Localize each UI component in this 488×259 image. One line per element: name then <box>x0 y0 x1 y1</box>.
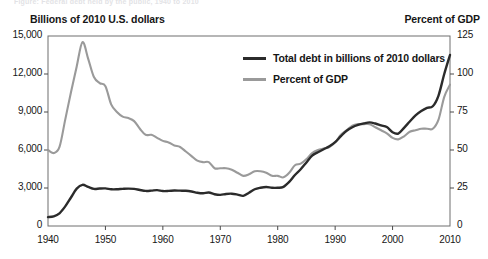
x-tick-label: 1970 <box>200 234 240 245</box>
figure-container: Figure: Federal debt held by the public,… <box>0 0 488 259</box>
y-tick-label-right: 75 <box>457 105 488 116</box>
chart-plot-area <box>0 0 488 259</box>
x-tick-label: 1990 <box>315 234 355 245</box>
legend-swatch-total-debt <box>243 57 266 60</box>
x-tick-label: 1950 <box>85 234 125 245</box>
x-tick-label: 2010 <box>430 234 470 245</box>
legend-swatch-percent-gdp <box>243 78 266 81</box>
y-tick-label-left: 0 <box>0 219 42 230</box>
y-tick-label-left: 9,000 <box>0 105 42 116</box>
x-tick-label: 1940 <box>28 234 68 245</box>
y-tick-label-left: 6,000 <box>0 143 42 154</box>
y-tick-label-right: 100 <box>457 67 488 78</box>
y-tick-label-right: 0 <box>457 219 488 230</box>
x-tick-label: 1980 <box>258 234 298 245</box>
x-tick-label: 2000 <box>373 234 413 245</box>
y-tick-label-left: 3,000 <box>0 181 42 192</box>
y-tick-label-right: 125 <box>457 29 488 40</box>
y-tick-label-left: 12,000 <box>0 67 42 78</box>
y-tick-label-left: 15,000 <box>0 29 42 40</box>
x-tick-label: 1960 <box>143 234 183 245</box>
legend-item-total-debt: Total debt in billions of 2010 dollars <box>243 52 445 64</box>
y-tick-label-right: 50 <box>457 143 488 154</box>
legend-item-percent-gdp: Percent of GDP <box>243 73 445 85</box>
legend-label-percent-gdp: Percent of GDP <box>273 73 348 85</box>
chart-legend: Total debt in billions of 2010 dollars P… <box>243 52 445 85</box>
legend-label-total-debt: Total debt in billions of 2010 dollars <box>273 52 445 64</box>
y-tick-label-right: 25 <box>457 181 488 192</box>
